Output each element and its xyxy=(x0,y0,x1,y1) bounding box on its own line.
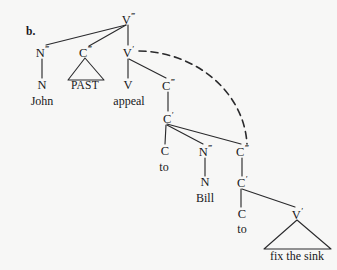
past-triangle xyxy=(68,58,104,80)
node-c-to-lower: C xyxy=(238,208,246,221)
node-n-obj: N xyxy=(200,176,209,189)
terminal-appeal: appeal xyxy=(113,95,144,107)
terminal-john: John xyxy=(31,95,54,107)
movement-dashed-arc xyxy=(139,51,247,144)
node-c3-past: C‴ xyxy=(79,45,91,60)
c1-to-n3obj xyxy=(167,125,203,144)
tree-lines-svg xyxy=(0,0,337,270)
terminal-to-lower: to xyxy=(237,223,246,235)
fix-the-sink-triangle xyxy=(264,220,331,249)
node-c1-lower: C′ xyxy=(237,175,247,190)
node-category: C xyxy=(238,207,246,221)
node-category: V xyxy=(123,46,132,60)
node-n3-subj: N‴ xyxy=(36,45,49,60)
node-c3-upper: C‴ xyxy=(162,78,174,93)
node-category: N xyxy=(36,46,45,60)
node-bar-level: ′ xyxy=(171,110,173,120)
node-v1-mid: V′ xyxy=(123,45,134,60)
node-bar-level: ‴ xyxy=(87,44,90,54)
c1-to-c-to xyxy=(165,125,166,144)
c1-to-c3lower xyxy=(167,124,241,144)
terminal-fix-the-sink: fix the sink xyxy=(270,250,324,262)
node-bar-level: ‴ xyxy=(244,143,247,153)
node-category: N xyxy=(37,78,46,92)
node-c1-upper: C′ xyxy=(163,111,173,126)
v3-to-c3-past xyxy=(89,25,126,46)
node-n3-obj: N‴ xyxy=(199,144,212,159)
terminal-bill: Bill xyxy=(196,192,214,204)
terminal-to-upper: to xyxy=(159,161,168,173)
node-bar-level: ′ xyxy=(245,174,247,184)
node-category: C xyxy=(161,144,169,158)
node-n-subj: N xyxy=(37,79,46,92)
node-bar-level: ′ xyxy=(132,44,134,54)
node-bar-level: ‴ xyxy=(131,11,134,21)
syntax-tree-figure: V‴N‴C‴V′NVC‴C′CN‴C‴NC′CV′JohnPASTappealt… xyxy=(0,0,337,270)
c1low-to-v1low xyxy=(242,189,295,207)
node-v3-top: V‴ xyxy=(122,12,135,27)
v1-to-c3upper xyxy=(129,59,166,78)
node-bar-level: ′ xyxy=(301,206,303,216)
node-category: V xyxy=(123,78,132,92)
node-c-to-upper: C xyxy=(161,145,169,158)
node-bar-level: ‴ xyxy=(170,77,173,87)
node-category: N xyxy=(199,145,208,159)
node-c3-lower: C‴ xyxy=(236,144,248,159)
v3-to-n3-subj xyxy=(46,25,126,45)
node-v1-lower: V′ xyxy=(292,207,303,222)
node-bar-level: ‴ xyxy=(208,143,211,153)
figure-enumeration-label: b. xyxy=(26,26,35,38)
node-category: N xyxy=(200,175,209,189)
node-category: V xyxy=(122,13,131,27)
node-bar-level: ‴ xyxy=(45,44,48,54)
node-category: V xyxy=(292,208,301,222)
terminal-past: PAST xyxy=(71,80,99,92)
node-v-appeal: V xyxy=(123,79,132,92)
